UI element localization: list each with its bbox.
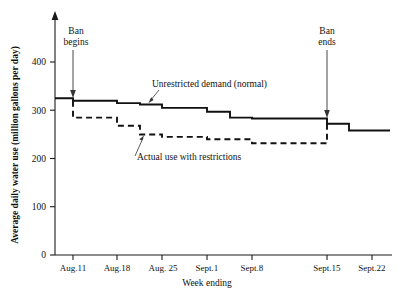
water-use-step-chart: 0 100 200 300 400 Aug.11 Aug.18 Aug. 25 … xyxy=(0,0,398,295)
y-tick-label-400: 400 xyxy=(32,57,47,67)
ban-ends-arrowhead-icon xyxy=(324,110,330,118)
x-axis-title: Week ending xyxy=(182,278,232,288)
annotation-ban-begins: Ban begins xyxy=(64,26,89,98)
ban-begins-arrowhead-icon xyxy=(70,90,76,98)
x-tick-labels: Aug.11 Aug.18 Aug. 25 Sept.1 Sept.8 Sept… xyxy=(60,263,386,273)
y-tick-labels: 0 100 200 300 400 xyxy=(32,57,47,260)
chart-svg: 0 100 200 300 400 Aug.11 Aug.18 Aug. 25 … xyxy=(0,0,398,295)
y-tick-label-300: 300 xyxy=(32,106,47,116)
ban-begins-label-line1: Ban xyxy=(68,26,84,36)
x-tick-label-aug-11: Aug.11 xyxy=(60,263,86,273)
series-unrestricted-demand xyxy=(55,98,390,130)
series-label-solid-text: Unrestricted demand (normal) xyxy=(152,79,267,90)
annotation-ban-ends: Ban ends xyxy=(318,26,336,118)
x-tick-label-sept-22: Sept.22 xyxy=(358,263,385,273)
series-label-dashed-text: Actual use with restrictions xyxy=(137,152,242,162)
ban-ends-label-line2: ends xyxy=(318,37,336,47)
y-axis-arrowhead xyxy=(52,11,59,20)
y-ticks xyxy=(50,62,55,255)
label-unrestricted-demand: Unrestricted demand (normal) xyxy=(149,79,268,103)
y-axis-title: Average daily water use (million gallons… xyxy=(10,46,21,244)
x-tick-label-aug-18: Aug.18 xyxy=(104,263,131,273)
series-label-dashed-leader-arrowhead-icon xyxy=(139,136,144,141)
ban-begins-label-line2: begins xyxy=(64,37,89,47)
x-tick-label-sept-1: Sept.1 xyxy=(196,263,219,273)
y-tick-label-0: 0 xyxy=(41,250,46,260)
ban-ends-label-line1: Ban xyxy=(319,26,335,36)
x-tick-label-aug-25: Aug. 25 xyxy=(149,263,178,273)
y-tick-label-200: 200 xyxy=(32,154,47,164)
y-tick-label-100: 100 xyxy=(32,202,47,212)
y-axis xyxy=(52,11,59,255)
x-tick-label-sept-15: Sept.15 xyxy=(313,263,341,273)
x-tick-label-sept-8: Sept.8 xyxy=(241,263,264,273)
x-ticks xyxy=(73,255,372,260)
